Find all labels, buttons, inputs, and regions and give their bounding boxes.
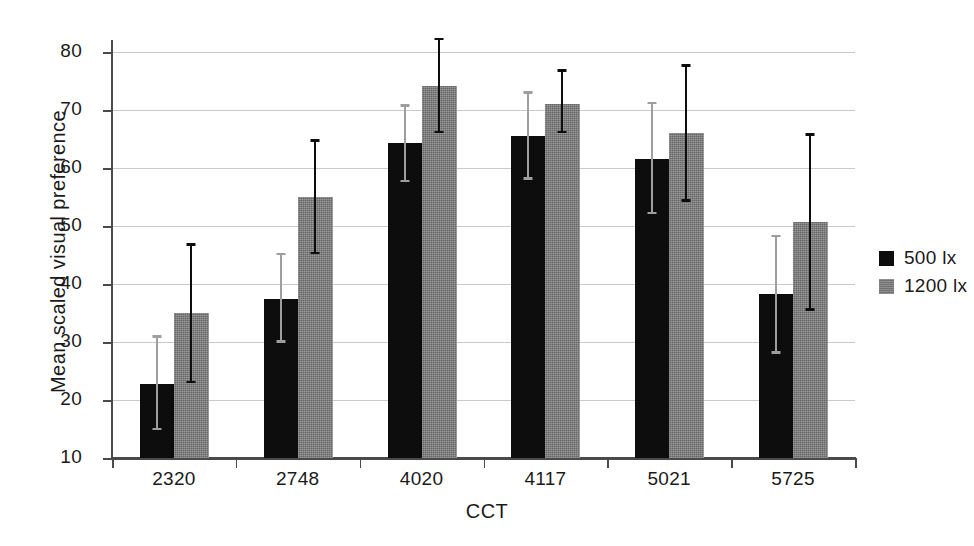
x-tick-mark <box>855 458 857 468</box>
error-bar <box>388 104 422 182</box>
x-tick-mark <box>731 458 733 468</box>
error-bar-stem <box>314 139 316 254</box>
legend-item: 1200 lx <box>879 272 967 300</box>
legend: 500 lx1200 lx <box>879 244 967 300</box>
x-tick-label: 2748 <box>236 468 360 490</box>
bar <box>511 136 545 458</box>
error-bar-stem <box>438 38 440 134</box>
bar <box>388 143 422 458</box>
bar <box>422 86 457 458</box>
error-bar-cap-top <box>400 104 409 107</box>
error-bar <box>140 335 174 430</box>
error-bar-cap-bottom <box>434 131 443 134</box>
plot-area <box>112 52 855 458</box>
error-bar-cap-top <box>152 335 161 338</box>
error-bar-stem <box>190 243 192 383</box>
error-bar-cap-bottom <box>772 351 781 354</box>
error-bar <box>635 102 669 215</box>
x-tick-mark <box>484 458 486 468</box>
error-bar <box>545 69 579 133</box>
error-bar <box>264 253 298 343</box>
x-tick-label: 5021 <box>607 468 731 490</box>
error-bar-cap-top <box>806 133 815 136</box>
error-bar <box>759 235 793 354</box>
error-bar-cap-bottom <box>400 180 409 183</box>
error-bar-cap-bottom <box>524 177 533 180</box>
error-bar-cap-top <box>772 235 781 238</box>
x-tick-label: 4020 <box>360 468 484 490</box>
legend-item: 500 lx <box>879 244 967 272</box>
error-bar-cap-top <box>558 69 567 72</box>
error-bar-stem <box>156 335 158 430</box>
error-bar-cap-bottom <box>186 381 195 384</box>
error-bar-stem <box>651 102 653 215</box>
x-tick-mark <box>360 458 362 468</box>
error-bar <box>511 91 545 179</box>
error-bar-cap-top <box>276 253 285 256</box>
error-bar-cap-top <box>310 139 319 142</box>
error-bar-cap-top <box>682 64 691 67</box>
x-tick-mark <box>236 458 238 468</box>
error-bar-cap-top <box>524 91 533 94</box>
x-tick-mark <box>607 458 609 468</box>
error-bar-cap-bottom <box>152 428 161 431</box>
bar <box>545 104 580 458</box>
error-bar-cap-bottom <box>806 308 815 311</box>
error-bar <box>174 243 208 383</box>
error-bar-cap-top <box>434 38 443 41</box>
legend-label: 1200 lx <box>904 275 967 297</box>
error-bar-cap-bottom <box>276 340 285 343</box>
error-bar-stem <box>527 91 529 179</box>
error-bar <box>298 139 332 254</box>
x-tick-mark <box>112 458 114 468</box>
error-bar <box>669 64 703 201</box>
error-bar-stem <box>280 253 282 343</box>
error-bar-cap-bottom <box>310 252 319 255</box>
error-bar <box>793 133 827 310</box>
error-bar-cap-top <box>186 243 195 246</box>
x-tick-label: 5725 <box>731 468 855 490</box>
legend-swatch <box>879 279 894 294</box>
error-bar-stem <box>775 235 777 354</box>
error-bar-cap-bottom <box>682 199 691 202</box>
error-bar-stem <box>561 69 563 133</box>
y-axis-title: Mean scaled visual preference <box>47 52 70 452</box>
legend-swatch <box>879 251 894 266</box>
error-bar-cap-top <box>648 102 657 105</box>
error-bar-stem <box>809 133 811 310</box>
legend-label: 500 lx <box>904 247 957 269</box>
x-axis-title: CCT <box>0 500 974 523</box>
bar-chart-figure: 1020304050607080 23202748402041175021572… <box>0 0 974 546</box>
error-bar <box>422 38 456 134</box>
x-tick-label: 4117 <box>484 468 608 490</box>
error-bar-stem <box>404 104 406 182</box>
x-tick-label: 2320 <box>112 468 236 490</box>
error-bar-cap-bottom <box>648 212 657 215</box>
error-bar-stem <box>685 64 687 201</box>
error-bar-cap-bottom <box>558 131 567 134</box>
